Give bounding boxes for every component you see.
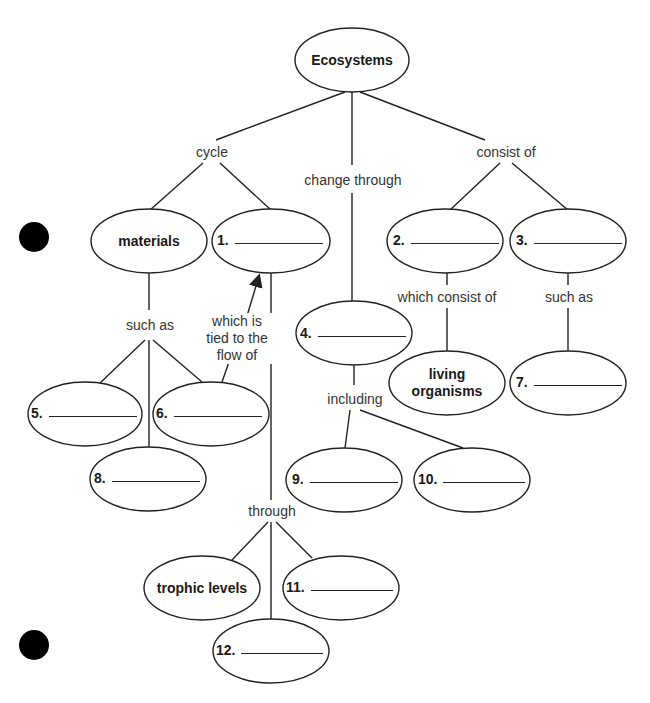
- answer-line[interactable]: [174, 415, 262, 417]
- blank-number: 11.: [286, 579, 305, 595]
- answer-line[interactable]: [112, 480, 200, 482]
- answer-line[interactable]: [443, 481, 525, 483]
- link-such-as-right: such as: [541, 289, 597, 306]
- blank-2[interactable]: 2.: [393, 232, 499, 248]
- blank-9[interactable]: 9.: [292, 471, 398, 487]
- answer-line[interactable]: [411, 242, 499, 244]
- node-materials: materials: [91, 209, 207, 273]
- answer-line[interactable]: [534, 242, 622, 244]
- blank-number: 5.: [31, 405, 43, 421]
- blank-7[interactable]: 7.: [516, 374, 622, 390]
- blank-11[interactable]: 11.: [286, 579, 393, 595]
- node-ecosystems: Ecosystems: [295, 28, 409, 92]
- link-through: through: [246, 503, 298, 520]
- answer-line[interactable]: [310, 481, 398, 483]
- node-trophic-levels-label: trophic levels: [157, 580, 247, 597]
- node-materials-label: materials: [118, 233, 179, 250]
- blank-5[interactable]: 5.: [31, 405, 137, 421]
- blank-10[interactable]: 10.: [418, 471, 525, 487]
- blank-number: 6.: [156, 405, 168, 421]
- blank-number: 1.: [217, 232, 229, 248]
- link-change-through: change through: [300, 172, 406, 189]
- answer-line[interactable]: [318, 335, 406, 337]
- blank-number: 9.: [292, 471, 304, 487]
- link-including: including: [324, 391, 386, 408]
- blank-number: 3.: [516, 232, 528, 248]
- link-tied-line-3: flow of: [198, 347, 276, 364]
- answer-line[interactable]: [311, 589, 393, 591]
- link-such-as-left: such as: [122, 317, 178, 334]
- blank-number: 7.: [516, 374, 528, 390]
- node-trophic-levels: trophic levels: [144, 556, 260, 620]
- blank-3[interactable]: 3.: [516, 232, 622, 248]
- link-tied-to-flow: which is tied to the flow of: [198, 313, 276, 364]
- node-living-organisms: living organisms: [389, 351, 505, 415]
- blank-number: 4.: [300, 325, 312, 341]
- blank-4[interactable]: 4.: [300, 325, 406, 341]
- blank-1[interactable]: 1.: [217, 232, 323, 248]
- blank-6[interactable]: 6.: [156, 405, 262, 421]
- answer-line[interactable]: [534, 384, 622, 386]
- link-cycle: cycle: [190, 144, 234, 161]
- link-tied-line-1: which is: [198, 313, 276, 330]
- answer-line[interactable]: [235, 242, 323, 244]
- concept-map-connectors: [0, 0, 650, 703]
- node-living-label-1: living: [429, 366, 466, 383]
- node-ecosystems-label: Ecosystems: [311, 52, 393, 69]
- link-which-consist-of: which consist of: [392, 289, 502, 306]
- blank-number: 12.: [216, 642, 235, 658]
- blank-number: 10.: [418, 471, 437, 487]
- blank-8[interactable]: 8.: [94, 470, 200, 486]
- link-consist-of: consist of: [472, 144, 540, 161]
- blank-number: 8.: [94, 470, 106, 486]
- link-tied-line-2: tied to the: [198, 330, 276, 347]
- answer-line[interactable]: [241, 652, 323, 654]
- answer-line[interactable]: [49, 415, 137, 417]
- blank-number: 2.: [393, 232, 405, 248]
- blank-12[interactable]: 12.: [216, 642, 323, 658]
- node-living-label-2: organisms: [412, 383, 483, 400]
